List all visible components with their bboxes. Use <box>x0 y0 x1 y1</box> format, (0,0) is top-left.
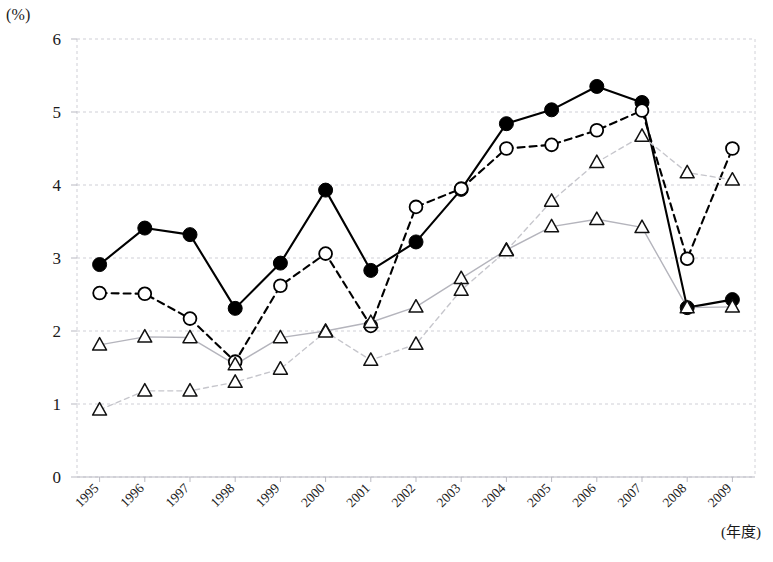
x-tick-labels: 1995199619971998199920002001200220032004… <box>72 477 735 510</box>
x-tick-label: 1995 <box>72 480 102 510</box>
x-tick-label: 2004 <box>479 480 509 510</box>
line-chart-plot: 0123456 19951996199719981999200020012002… <box>0 0 773 562</box>
data-point-series-triangle-dashed <box>545 194 559 206</box>
data-point-series-triangle-dashed <box>273 362 287 374</box>
data-point-series-open-circle-dashed <box>93 287 106 300</box>
y-tick-label: 5 <box>53 103 62 122</box>
data-point-series-triangle-dashed <box>499 243 513 255</box>
data-point-series-triangle-dashed <box>93 403 107 415</box>
data-point-series-filled-circle-solid <box>319 183 333 197</box>
y-tick-label: 2 <box>53 322 62 341</box>
series-line-series-triangle-dashed <box>100 136 733 410</box>
data-point-series-triangle-dashed <box>635 129 649 141</box>
data-point-series-open-circle-dashed <box>319 247 332 260</box>
data-point-series-open-circle-dashed <box>500 142 513 155</box>
series-line-series-filled-circle-solid <box>100 86 733 308</box>
data-point-series-filled-circle-solid <box>364 263 378 277</box>
y-tick-labels: 0123456 <box>53 30 78 487</box>
x-tick-label: 2009 <box>705 480 735 510</box>
x-tick-label: 2005 <box>524 480 554 510</box>
data-point-series-open-circle-dashed <box>455 182 468 195</box>
data-point-series-filled-circle-solid <box>499 117 513 131</box>
data-point-series-open-circle-dashed <box>636 104 649 117</box>
data-point-series-filled-circle-solid <box>590 79 604 93</box>
data-point-series-triangle-solid <box>590 212 604 224</box>
x-tick-label: 1999 <box>253 480 283 510</box>
y-tick-label: 0 <box>53 468 62 487</box>
x-tick-label: 1998 <box>208 480 238 510</box>
x-tick-label: 2002 <box>388 481 418 511</box>
x-tick-label: 2007 <box>614 480 644 510</box>
data-point-series-open-circle-dashed <box>274 279 287 292</box>
x-tick-label: 2003 <box>434 480 464 510</box>
data-point-series-filled-circle-solid <box>273 256 287 270</box>
data-point-series-triangle-solid <box>183 330 197 342</box>
data-point-series-triangle-dashed <box>590 155 604 167</box>
x-tick-label: 1997 <box>162 480 192 510</box>
data-point-series-open-circle-dashed <box>545 138 558 151</box>
x-tick-label: 2000 <box>298 480 328 510</box>
gridlines <box>77 39 755 477</box>
data-point-series-filled-circle-solid <box>228 301 242 315</box>
data-point-series-open-circle-dashed <box>590 124 603 137</box>
data-point-series-triangle-dashed <box>138 384 152 396</box>
data-point-series-triangle-dashed <box>680 165 694 177</box>
data-point-series-triangle-solid <box>409 300 423 312</box>
data-point-series-open-circle-dashed <box>726 142 739 155</box>
data-point-series-filled-circle-solid <box>138 221 152 235</box>
y-tick-label: 4 <box>53 176 62 195</box>
x-tick-label: 2008 <box>660 480 690 510</box>
data-point-series-filled-circle-solid <box>409 235 423 249</box>
y-tick-label: 6 <box>53 30 62 49</box>
x-tick-label: 1996 <box>117 480 147 510</box>
data-point-series-open-circle-dashed <box>410 201 423 214</box>
series-markers <box>93 79 740 415</box>
x-tick-label: 2006 <box>569 480 599 510</box>
y-tick-label: 3 <box>53 249 62 268</box>
data-point-series-open-circle-dashed <box>184 312 197 325</box>
data-point-series-filled-circle-solid <box>183 228 197 242</box>
x-tick-label: 2001 <box>343 481 373 511</box>
data-point-series-triangle-dashed <box>454 283 468 295</box>
data-point-series-triangle-solid <box>454 271 468 283</box>
data-point-series-filled-circle-solid <box>545 103 559 117</box>
chart-root: (%) (年度) 0123456 19951996199719981999200… <box>0 0 773 562</box>
data-point-series-open-circle-dashed <box>138 287 151 300</box>
data-point-series-triangle-dashed <box>364 353 378 365</box>
data-point-series-filled-circle-solid <box>93 258 107 272</box>
data-point-series-open-circle-dashed <box>681 252 694 265</box>
y-tick-label: 1 <box>53 395 62 414</box>
